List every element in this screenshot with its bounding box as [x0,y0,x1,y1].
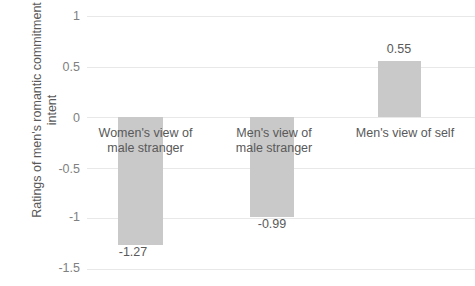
category-label-men-view-of-male-stranger: Men's view of male stranger [229,126,319,156]
bar-men-view-of-self[interactable] [378,61,421,117]
value-label-men-view-of-self: 0.55 [354,42,444,56]
y-tick-label-minus-1: -1 [8,211,80,223]
value-label-men-view-of-male-stranger: -0.99 [227,217,317,231]
category-label-line1: Men's view of self [356,126,454,140]
value-label-women-view-of-male-stranger: -1.27 [88,245,178,259]
gridline-minus-1.5 [87,269,475,270]
y-tick-label-0.5: 0.5 [8,61,80,73]
y-tick-label-minus-1.5: -1.5 [8,262,80,274]
bar-chart: Ratings of men's romantic commitment int… [0,0,475,286]
y-tick-label-0: 0 [8,112,80,124]
category-label-line2: stranger [266,141,312,155]
category-label-women-view-of-male-stranger: Women's view of male stranger [94,126,197,156]
category-label-men-view-of-self: Men's view of self [350,126,460,141]
y-tick-label-1: 1 [8,10,80,22]
gridline-1 [87,16,475,17]
category-label-line2: stranger [138,141,184,155]
y-tick-label-minus-0.5: -0.5 [8,163,80,175]
